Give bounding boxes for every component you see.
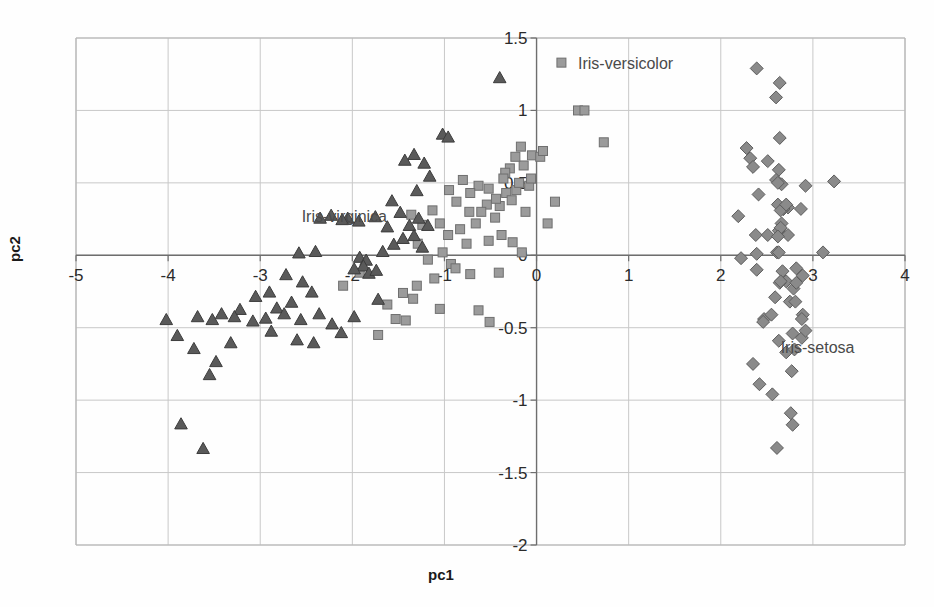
x-tick-label: 4 [900, 266, 909, 285]
data-point-diamond [752, 188, 765, 201]
data-point-square [508, 238, 517, 247]
data-points [160, 62, 841, 454]
data-point-square [452, 197, 461, 206]
data-point-square [466, 270, 475, 279]
data-point-square [516, 142, 525, 151]
series-iris-setosa [732, 62, 841, 454]
data-point-diamond [794, 202, 807, 215]
data-point-triangle [372, 293, 385, 304]
x-tick-label: 1 [624, 266, 633, 285]
data-point-diamond [749, 229, 762, 242]
data-point-triangle [203, 368, 216, 379]
scatter-plot: -5-4-3-2-101234-2-1.5-1-0.500.511.5 Iris… [0, 0, 934, 607]
data-point-square [492, 194, 501, 203]
data-point-diamond [785, 365, 798, 378]
data-point-diamond [747, 357, 760, 370]
data-point-diamond [770, 441, 783, 454]
data-point-square [435, 219, 444, 228]
data-point-triangle [313, 308, 326, 319]
x-tick-label: 2 [716, 266, 725, 285]
data-point-square [374, 330, 383, 339]
data-point-diamond [750, 247, 763, 260]
data-point-square [465, 207, 474, 216]
data-point-diamond [732, 210, 745, 223]
data-point-square [511, 152, 520, 161]
y-tick-label: 1.5 [504, 29, 528, 48]
data-point-square [507, 196, 516, 205]
data-point-square [599, 138, 608, 147]
data-point-diamond [817, 246, 830, 259]
data-point-square [445, 186, 454, 195]
data-point-triangle [265, 325, 278, 336]
grid-lines [76, 38, 905, 545]
x-tick-label: -5 [68, 266, 83, 285]
data-point-triangle [306, 286, 319, 297]
data-point-triangle [376, 245, 389, 256]
annotation-label-iris-versicolor: Iris-versicolor [578, 55, 674, 72]
x-tick-label: -3 [253, 266, 268, 285]
data-point-triangle [175, 418, 188, 429]
data-point-square [391, 315, 400, 324]
data-point-triangle [296, 276, 309, 287]
data-point-square [428, 206, 437, 215]
data-point-square [485, 317, 494, 326]
data-point-square [519, 161, 528, 170]
data-point-diamond [750, 263, 763, 276]
data-point-square [497, 231, 506, 240]
data-point-triangle [271, 302, 284, 313]
annotation-marker [557, 58, 566, 67]
data-point-square [423, 255, 432, 264]
data-point-diamond [828, 175, 841, 188]
data-point-square [474, 181, 483, 190]
data-point-diamond [770, 91, 783, 104]
data-point-triangle [397, 232, 410, 243]
y-tick-label: -1 [512, 391, 527, 410]
data-point-square [499, 174, 508, 183]
data-point-square [527, 174, 536, 183]
data-point-square [550, 197, 559, 206]
data-point-square [477, 207, 486, 216]
data-point-square [430, 274, 439, 283]
chart-figure: -5-4-3-2-101234-2-1.5-1-0.500.511.5 Iris… [0, 0, 934, 607]
data-point-square [527, 151, 536, 160]
data-point-diamond [799, 179, 812, 192]
data-point-square [543, 219, 552, 228]
data-point-triangle [309, 245, 322, 256]
data-point-diamond [735, 252, 748, 265]
y-tick-label: 1 [518, 101, 527, 120]
data-point-triangle [386, 195, 399, 206]
data-point-square [438, 248, 447, 257]
data-point-diamond [773, 131, 786, 144]
data-point-diamond [753, 378, 766, 391]
data-point-square [484, 236, 493, 245]
data-point-diamond [772, 246, 785, 259]
data-point-square [521, 207, 530, 216]
data-point-square [471, 219, 480, 228]
data-point-triangle [215, 308, 228, 319]
data-point-triangle [191, 311, 204, 322]
data-point-square [491, 213, 500, 222]
data-point-square [456, 225, 465, 234]
annotation-label-iris-virginica: Iris-virginica [302, 208, 387, 225]
data-point-diamond [766, 388, 779, 401]
data-point-square [494, 268, 503, 277]
y-axis-title: pc2 [6, 236, 23, 262]
data-point-diamond [772, 163, 785, 176]
tick-labels: -5-4-3-2-101234-2-1.5-1-0.500.511.5 [68, 29, 909, 555]
data-point-triangle [293, 247, 306, 258]
data-point-triangle [493, 72, 506, 83]
data-point-triangle [160, 313, 173, 324]
data-point-triangle [259, 312, 272, 323]
data-point-triangle [285, 296, 298, 307]
data-point-square [539, 146, 548, 155]
data-point-diamond [773, 76, 786, 89]
data-point-square [466, 188, 475, 197]
data-point-diamond [786, 418, 799, 431]
data-point-square [444, 231, 453, 240]
data-point-diamond [784, 407, 797, 420]
data-point-square [458, 175, 467, 184]
x-axis-title: pc1 [428, 566, 454, 583]
data-point-triangle [307, 337, 320, 348]
data-point-triangle [291, 334, 304, 345]
data-point-square [462, 239, 471, 248]
